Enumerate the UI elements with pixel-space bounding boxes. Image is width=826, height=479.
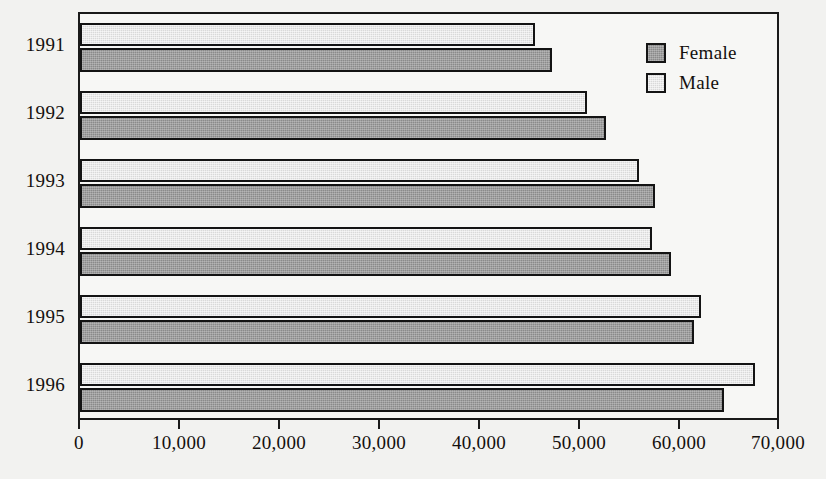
- bar-male-1996: [80, 363, 755, 386]
- bar-male-1995: [80, 295, 701, 318]
- x-axis-tick-label-70000: 70,000: [718, 432, 826, 454]
- x-axis-tick-40000: [478, 420, 480, 429]
- x-axis-tick-60000: [678, 420, 680, 429]
- bar-male-1991: [80, 23, 535, 46]
- legend-item-female: Female: [646, 38, 737, 68]
- x-axis-tick-50000: [578, 420, 580, 429]
- legend-label-female: Female: [679, 42, 737, 64]
- bar-group-1996: [80, 354, 777, 422]
- bar-female-1992: [80, 116, 606, 140]
- bar-group-1994: [80, 218, 777, 286]
- y-axis-label-1995: 1995: [0, 306, 65, 328]
- x-axis-tick-70000: [777, 420, 779, 429]
- y-axis-label-1996: 1996: [0, 374, 65, 396]
- legend: Female Male: [646, 38, 737, 98]
- y-axis-label-1994: 1994: [0, 238, 65, 260]
- bar-female-1991: [80, 48, 552, 72]
- bar-female-1995: [80, 320, 694, 344]
- bar-chart: 1991 1992 1993 1994 1995 1996: [0, 0, 826, 479]
- bar-female-1994: [80, 252, 671, 276]
- legend-swatch-male-icon: [646, 73, 666, 93]
- y-axis-label-1992: 1992: [0, 102, 65, 124]
- y-axis-label-1991: 1991: [0, 34, 65, 56]
- x-axis-tick-0: [78, 420, 80, 429]
- legend-swatch-female-icon: [646, 43, 666, 63]
- bar-female-1996: [80, 388, 724, 412]
- bar-male-1992: [80, 91, 587, 114]
- x-axis-tick-20000: [278, 420, 280, 429]
- legend-label-male: Male: [679, 72, 719, 94]
- legend-item-male: Male: [646, 68, 737, 98]
- bar-female-1993: [80, 184, 655, 208]
- x-axis-tick-30000: [378, 420, 380, 429]
- bar-male-1993: [80, 159, 639, 182]
- x-axis-tick-10000: [178, 420, 180, 429]
- bar-group-1993: [80, 150, 777, 218]
- bar-group-1995: [80, 286, 777, 354]
- bar-male-1994: [80, 227, 652, 250]
- y-axis-label-1993: 1993: [0, 170, 65, 192]
